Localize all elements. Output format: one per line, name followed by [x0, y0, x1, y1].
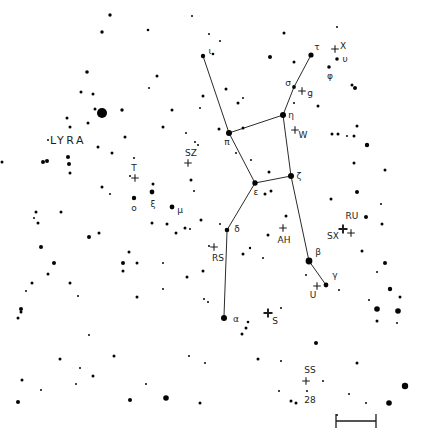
star-label: β [315, 247, 321, 257]
field-star [16, 400, 20, 404]
field-star [88, 334, 90, 336]
field-star [386, 400, 392, 406]
field-star [208, 33, 210, 35]
field-star [249, 247, 251, 249]
field-star [317, 105, 320, 108]
star-label: γ [332, 270, 338, 280]
field-star [355, 190, 359, 194]
field-star [162, 262, 164, 264]
field-star [79, 367, 81, 369]
field-star [200, 219, 203, 222]
named-star [132, 196, 136, 200]
variable-label: RU [346, 211, 359, 221]
field-star [45, 159, 49, 163]
variable-label: RS [212, 253, 224, 263]
field-star [166, 223, 169, 226]
star-label: α [233, 314, 239, 324]
constellation-name: LYRA [50, 134, 86, 147]
field-star [75, 383, 77, 385]
star-label: ε [254, 187, 259, 197]
field-star [218, 128, 221, 131]
field-star [219, 40, 221, 42]
star-label: σ [285, 78, 291, 88]
field-star [351, 84, 354, 87]
field-star [122, 270, 125, 273]
field-star [147, 29, 150, 32]
field-star [278, 390, 280, 392]
field-star [20, 311, 23, 314]
variable-label: SX [327, 231, 339, 241]
field-star [59, 358, 62, 361]
field-star [47, 139, 49, 141]
field-star [365, 143, 369, 147]
variable-label: T [130, 163, 137, 173]
field-star [257, 358, 260, 361]
field-star [40, 389, 42, 391]
field-star [124, 136, 127, 139]
field-star [69, 282, 72, 285]
field-star [37, 222, 40, 225]
field-star [374, 306, 380, 312]
field-star [399, 296, 402, 299]
field-star [194, 141, 196, 143]
star-label: ο [131, 203, 137, 213]
field-star [121, 261, 125, 265]
field-star [85, 70, 89, 74]
variable-star-dot [306, 390, 308, 392]
field-star [353, 86, 357, 90]
field-star [128, 251, 131, 254]
named-star [221, 315, 227, 321]
field-star [241, 333, 244, 336]
field-star [186, 276, 189, 279]
field-star [193, 190, 195, 192]
field-star [225, 88, 228, 91]
field-star [60, 211, 63, 214]
star-label: υ [342, 54, 347, 64]
field-star [197, 144, 199, 146]
field-star [17, 317, 20, 320]
named-star [292, 85, 296, 89]
field-star [203, 298, 205, 300]
field-star [25, 290, 27, 292]
star-label: φ [327, 71, 333, 81]
field-star [98, 232, 101, 235]
field-star [348, 393, 350, 395]
field-star [268, 171, 271, 174]
field-star [280, 360, 282, 362]
field-star [395, 308, 401, 314]
field-star [171, 109, 174, 112]
field-star [322, 380, 324, 382]
field-star [330, 198, 333, 201]
field-star [190, 179, 193, 182]
field-star [35, 211, 38, 214]
field-star [337, 133, 340, 136]
field-star [202, 270, 205, 273]
field-star [383, 261, 387, 265]
field-star [1, 161, 4, 164]
field-star [136, 296, 139, 299]
field-star [31, 282, 34, 285]
field-star [293, 102, 295, 104]
field-star [290, 400, 293, 403]
field-star [156, 75, 159, 78]
field-star [92, 93, 95, 96]
field-star [108, 13, 111, 16]
field-star [262, 257, 264, 259]
named-star [324, 283, 329, 288]
field-star [331, 133, 334, 136]
field-star [66, 117, 69, 120]
field-star [280, 307, 282, 309]
field-star [212, 53, 215, 56]
field-star [202, 95, 205, 98]
hercules-finder-chart: ιτσηπζεδβγαμξουφXgWSZTRSAHSXRUUSSS28LYRA [0, 0, 427, 441]
field-star [97, 146, 100, 149]
named-star [226, 130, 232, 136]
star-label: π [224, 137, 230, 147]
variable-label: SS [304, 365, 316, 375]
field-star [336, 26, 338, 28]
star-label: ξ [150, 199, 155, 209]
field-star [242, 97, 244, 99]
field-star [100, 30, 103, 33]
field-star [69, 172, 72, 175]
field-star [267, 234, 270, 237]
